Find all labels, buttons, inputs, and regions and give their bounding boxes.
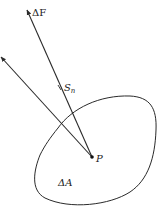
stress-diagram: ΔF Sn P ΔA <box>0 0 165 210</box>
force-vector-arrow <box>27 10 92 157</box>
stress-label: Sn <box>64 82 76 95</box>
force-label: ΔF <box>32 7 46 18</box>
point-p-dot <box>90 155 94 159</box>
stress-vector-arrow <box>1 57 92 157</box>
point-label: P <box>95 153 103 164</box>
area-label: ΔA <box>57 177 72 188</box>
area-region-outline <box>35 96 156 205</box>
